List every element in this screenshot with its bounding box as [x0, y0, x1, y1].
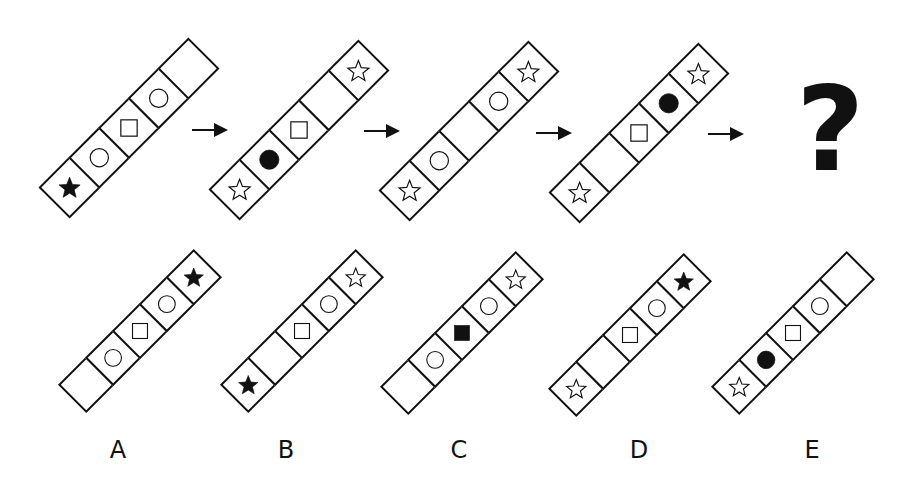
circle-filled-icon	[252, 143, 286, 177]
star-outline-icon	[511, 55, 545, 89]
option-label-a: A	[110, 436, 126, 464]
square-outline-icon	[622, 116, 656, 150]
option-label-c: C	[451, 436, 468, 464]
option-strip-e[interactable]	[711, 251, 875, 415]
circle-filled-icon	[652, 86, 686, 120]
arrow-right-icon	[364, 121, 400, 141]
circle-outline-icon	[482, 84, 516, 118]
circle-filled-icon	[751, 344, 782, 375]
star-filled-icon	[53, 170, 87, 204]
square-filled-icon	[446, 317, 477, 348]
arrow-right-icon	[708, 124, 744, 144]
circle-outline-icon	[641, 293, 672, 324]
option-strip-d[interactable]	[548, 253, 712, 417]
option-label-d: D	[630, 436, 648, 464]
option-label-b: B	[278, 436, 294, 464]
circle-outline-icon	[82, 141, 116, 175]
star-outline-icon	[724, 371, 755, 402]
unknown-answer-question-mark: ?	[796, 70, 864, 188]
square-outline-icon	[112, 111, 146, 145]
sequence-strip-4	[548, 42, 729, 223]
star-outline-icon	[341, 54, 375, 88]
circle-outline-icon	[420, 344, 451, 375]
sequence-strip-2	[208, 39, 389, 220]
star-outline-icon	[223, 172, 257, 206]
star-outline-icon	[561, 373, 592, 404]
arrow-right-icon	[536, 123, 572, 143]
square-outline-icon	[777, 317, 808, 348]
square-outline-icon	[286, 315, 317, 346]
circle-outline-icon	[422, 144, 456, 178]
circle-outline-icon	[151, 289, 182, 320]
sequence-strip-3	[378, 40, 559, 221]
arrow-right-icon	[192, 120, 228, 140]
square-outline-icon	[614, 319, 645, 350]
circle-outline-icon	[98, 342, 129, 373]
square-outline-icon	[124, 315, 155, 346]
circle-outline-icon	[142, 81, 176, 115]
star-outline-icon	[563, 175, 597, 209]
star-filled-icon	[233, 369, 264, 400]
star-filled-icon	[178, 262, 209, 293]
option-strip-a[interactable]	[58, 249, 222, 413]
star-outline-icon	[393, 173, 427, 207]
circle-outline-icon	[473, 291, 504, 322]
star-outline-icon	[681, 57, 715, 91]
star-outline-icon	[340, 262, 371, 293]
option-label-e: E	[804, 436, 819, 464]
circle-outline-icon	[804, 291, 835, 322]
square-outline-icon	[282, 113, 316, 147]
option-strip-b[interactable]	[220, 249, 384, 413]
star-outline-icon	[500, 264, 531, 295]
circle-outline-icon	[313, 289, 344, 320]
star-filled-icon	[668, 266, 699, 297]
option-strip-c[interactable]	[380, 251, 544, 415]
